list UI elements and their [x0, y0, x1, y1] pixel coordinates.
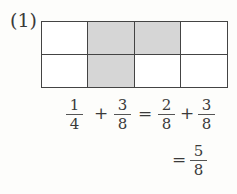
plus-sign: +	[180, 103, 194, 123]
denominator: 8	[194, 162, 204, 178]
numerator: 5	[191, 143, 207, 159]
numerator: 2	[159, 97, 175, 113]
fraction-3-8: 3 8	[114, 97, 131, 132]
fraction-grid	[41, 21, 228, 88]
grid-cell-shaded	[88, 22, 134, 55]
grid-cell-shaded	[135, 22, 181, 55]
grid-cell	[42, 22, 88, 55]
grid-cell	[181, 55, 227, 88]
problem-label: (1)	[10, 9, 37, 31]
grid-cell	[181, 22, 227, 55]
equals-sign: =	[138, 103, 152, 123]
grid-cell	[135, 55, 181, 88]
denominator: 8	[162, 116, 172, 132]
numerator: 3	[199, 97, 215, 113]
equals-sign: =	[172, 149, 186, 169]
fraction-1-4: 1 4	[66, 97, 83, 132]
grid-cell-shaded	[88, 55, 134, 88]
denominator: 8	[202, 116, 212, 132]
fraction-3-8b: 3 8	[198, 97, 215, 132]
plus-sign: +	[94, 103, 108, 123]
grid-cell	[42, 55, 88, 88]
numerator: 3	[115, 97, 131, 113]
denominator: 8	[118, 116, 128, 132]
numerator: 1	[67, 97, 83, 113]
fraction-2-8: 2 8	[158, 97, 175, 132]
denominator: 4	[70, 116, 80, 132]
fraction-5-8: 5 8	[190, 143, 207, 178]
